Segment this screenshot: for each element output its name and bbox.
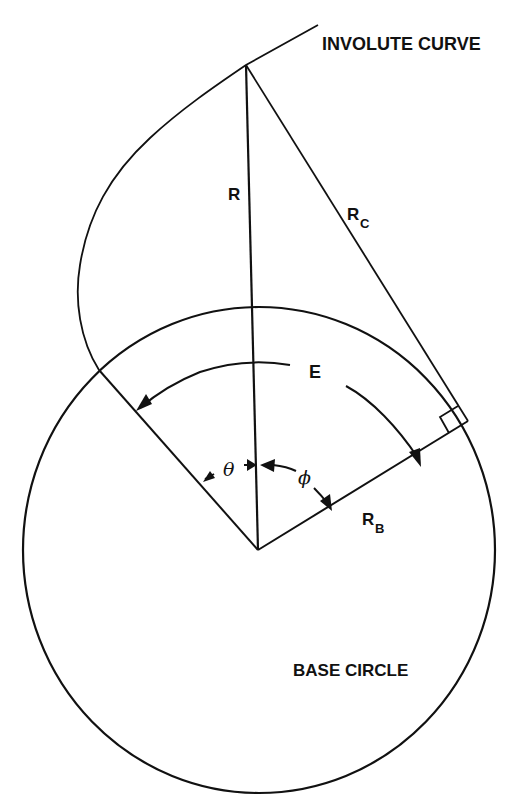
arc-E-right [346,386,418,458]
label-Rb-subscript: B [375,521,384,536]
label-Rc-subscript: C [360,216,370,231]
label-theta: θ [223,458,235,480]
base-radius-line-Rb [258,421,468,550]
arrowhead-E-right [409,448,421,467]
arrowhead-theta-left [203,471,215,482]
label-base-circle: BASE CIRCLE [293,661,408,680]
label-E: E [309,362,321,382]
arc-E-left [140,362,290,408]
arrowhead-E-left [136,394,152,411]
involute-diagram: INVOLUTE CURVE BASE CIRCLE R R C R B E θ… [0,0,532,807]
label-involute-curve: INVOLUTE CURVE [322,34,481,54]
phi-arc-top [273,465,296,471]
label-R: R [228,185,240,204]
curvature-radius-line-Rc [246,65,468,421]
label-Rb: R [362,510,374,529]
arrowhead-phi-top [260,459,275,472]
label-phi: ϕ [298,466,311,488]
label-Rc: R [347,205,359,224]
involute-curve [78,25,318,370]
